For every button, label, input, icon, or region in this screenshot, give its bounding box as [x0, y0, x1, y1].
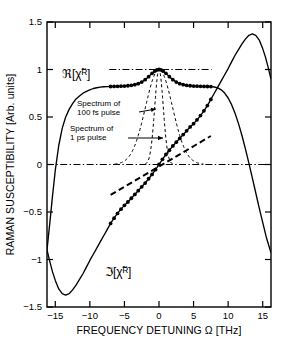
data-marker [147, 75, 151, 79]
y-tick-label: 1 [37, 64, 42, 75]
annotation-100fs-arrowhead [151, 108, 156, 112]
data-marker [112, 85, 116, 89]
data-marker [119, 84, 123, 88]
data-marker [195, 118, 199, 122]
y-tick-label: 1.5 [29, 16, 42, 27]
x-axis-title: FREQUENCY DETUNING Ω [THz] [77, 324, 242, 336]
data-marker [181, 133, 185, 137]
annotation-100fs-line2: 100 fs pulse [77, 108, 121, 117]
data-marker [109, 222, 113, 226]
x-tick-label: 10 [223, 310, 234, 321]
data-marker [126, 200, 130, 204]
data-marker [109, 85, 113, 89]
annotation-1ps-line2: 1 ps pulse [70, 133, 107, 142]
data-marker [192, 122, 196, 126]
data-marker [195, 84, 199, 88]
y-tick-label: −0.5 [23, 206, 42, 217]
data-marker [206, 104, 210, 108]
data-marker [129, 83, 133, 87]
data-marker [202, 85, 206, 89]
data-marker [143, 181, 147, 185]
data-marker [136, 189, 140, 193]
annotation-1ps-arrowhead [158, 136, 163, 140]
data-marker [129, 196, 133, 200]
data-marker [188, 84, 192, 88]
data-marker [185, 83, 189, 87]
data-marker [123, 203, 127, 207]
annotation-1ps: Spectrum of1 ps pulse [70, 124, 163, 142]
y-tick-label: 0.5 [29, 111, 42, 122]
real-part-label: ℜ[χ̃ᴿ] [62, 67, 90, 81]
data-marker [140, 185, 144, 189]
data-marker [164, 71, 168, 75]
data-marker [167, 75, 171, 79]
gaussian-100fs [114, 70, 203, 165]
data-marker [206, 85, 210, 89]
data-marker [164, 153, 168, 157]
annotation-100fs-line1: Spectrum of [77, 99, 121, 108]
data-marker [126, 84, 130, 88]
data-marker [171, 144, 175, 148]
data-marker [178, 82, 182, 86]
imag-part-label: ℑ[χ̃ᴿ] [105, 265, 131, 279]
Re[chi_R] solid [47, 70, 271, 253]
data-marker [167, 148, 171, 152]
x-tick-label: −5 [119, 310, 130, 321]
data-marker [116, 212, 120, 216]
data-marker [116, 84, 120, 88]
data-marker [133, 193, 137, 197]
x-tick-label: −10 [82, 310, 98, 321]
data-marker [209, 85, 213, 89]
data-marker [123, 84, 127, 88]
data-marker [202, 109, 206, 113]
data-marker [188, 125, 192, 129]
data-marker [147, 177, 151, 181]
data-marker [209, 98, 213, 102]
data-marker [171, 78, 175, 82]
data-marker [150, 173, 154, 177]
y-tick-label: 0 [37, 159, 42, 170]
data-marker [174, 140, 178, 144]
y-tick-label: −1 [31, 254, 42, 265]
data-marker [178, 136, 182, 140]
x-tick-label: 5 [191, 310, 196, 321]
data-marker [136, 82, 140, 86]
x-tick-label: −15 [47, 310, 63, 321]
data-marker [174, 80, 178, 84]
chart-canvas: −15−10−50510151.510.50−0.5−1−1.5FREQUENC… [0, 0, 286, 347]
raman-susceptibility-figure: −15−10−50510151.510.50−0.5−1−1.5FREQUENC… [0, 0, 286, 347]
data-marker [185, 129, 189, 133]
data-marker [199, 84, 203, 88]
data-marker [140, 80, 144, 84]
data-marker [161, 157, 165, 161]
y-tick-label: −1.5 [23, 301, 42, 312]
data-marker [143, 78, 147, 82]
data-marker [192, 84, 196, 88]
data-marker [133, 83, 137, 87]
data-marker [112, 216, 116, 220]
linear-slope-guide [111, 136, 211, 195]
x-tick-label: 15 [257, 310, 268, 321]
data-marker [181, 83, 185, 87]
data-marker [119, 207, 123, 211]
y-axis-title: RAMAN SUSCEPTIBILITY [Arb. units] [4, 74, 16, 256]
annotation-1ps-line1: Spectrum of [70, 124, 114, 133]
x-tick-label: 0 [156, 310, 161, 321]
data-marker [199, 114, 203, 118]
